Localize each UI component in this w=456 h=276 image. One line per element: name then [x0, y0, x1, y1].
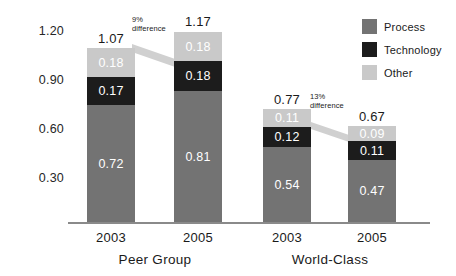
legend-swatch-technology-icon [362, 42, 377, 57]
x-axis-baseline [68, 222, 430, 224]
bar-segment-process: 0.47 [348, 160, 396, 222]
bar-segment-process: 0.54 [263, 147, 311, 222]
bar-segment-process: 0.72 [87, 105, 135, 222]
bar-total-label: 0.67 [342, 109, 402, 124]
y-axis-tick-4: 0.30 [18, 172, 64, 185]
y-axis-tick-1: 1.20 [18, 25, 64, 38]
legend-label-other: Other [384, 67, 413, 79]
bar-worldclass-2005[interactable]: 0.09 0.11 0.47 [348, 126, 396, 222]
world-class-difference-ribbon [308, 121, 352, 143]
bar-segment-other: 0.11 [263, 109, 311, 127]
bar-segment-other: 0.18 [87, 48, 135, 77]
bar-total-label: 1.07 [81, 31, 141, 46]
x-axis-category-label: 2005 [163, 230, 233, 245]
x-axis-category-label: 2003 [252, 230, 322, 245]
bar-segment-technology: 0.18 [174, 61, 222, 91]
bar-segment-other: 0.18 [174, 32, 222, 61]
legend-item-technology[interactable]: Technology [362, 40, 442, 59]
group-label-peer-group: Peer Group [85, 252, 225, 267]
legend-label-process: Process [384, 21, 425, 33]
x-axis-category-label: 2005 [337, 230, 407, 245]
peer-difference-percent: 9% [132, 15, 166, 24]
y-axis-tick-3: 0.60 [18, 123, 64, 136]
peer-group-difference-ribbon [132, 44, 178, 68]
legend-label-technology: Technology [384, 44, 442, 56]
bar-peer-2003[interactable]: 0.18 0.17 0.72 [87, 48, 135, 222]
legend-swatch-other-icon [362, 65, 377, 80]
bar-peer-2005[interactable]: 0.18 0.18 0.81 [174, 32, 222, 222]
bar-segment-process: 0.81 [174, 91, 222, 222]
bar-worldclass-2003[interactable]: 0.11 0.12 0.54 [263, 109, 311, 222]
x-axis-category-label: 2003 [76, 230, 146, 245]
stacked-bar-chart: 1.20 0.90 0.60 0.30 9% difference 13% di… [0, 0, 456, 276]
legend-swatch-process-icon [362, 19, 377, 34]
bar-segment-technology: 0.12 [263, 127, 311, 147]
bar-segment-technology: 0.17 [87, 77, 135, 105]
bar-segment-technology: 0.11 [348, 141, 396, 160]
group-label-world-class: World-Class [260, 252, 400, 267]
legend-item-process[interactable]: Process [362, 17, 442, 36]
legend-item-other[interactable]: Other [362, 63, 442, 82]
bar-total-label: 0.77 [257, 92, 317, 107]
y-axis-tick-2: 0.90 [18, 74, 64, 87]
chart-legend: Process Technology Other [362, 17, 442, 86]
bar-segment-other: 0.09 [348, 126, 396, 141]
bar-total-label: 1.17 [168, 14, 228, 29]
